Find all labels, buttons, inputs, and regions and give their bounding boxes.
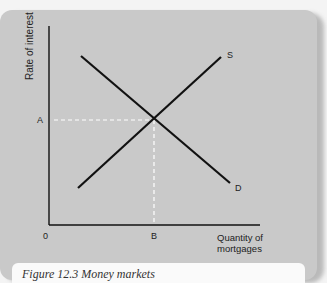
equilibrium-rate-label: A (37, 116, 43, 125)
equilibrium-quantity-label: B (151, 232, 157, 241)
x-axis-label: Quantity of mortgages (217, 232, 263, 254)
origin-label: 0 (43, 232, 48, 241)
supply-curve (78, 57, 221, 188)
supply-label: S (227, 51, 233, 60)
x-axis-label-line2: mortgages (217, 243, 263, 254)
x-axis-label-line1: Quantity of (217, 232, 263, 243)
y-axis-label: Rate of interest (24, 12, 35, 80)
figure-caption-box: Figure 12.3 Money markets (12, 263, 305, 283)
demand-label: D (235, 184, 242, 193)
figure-caption: Figure 12.3 Money markets (22, 267, 155, 282)
